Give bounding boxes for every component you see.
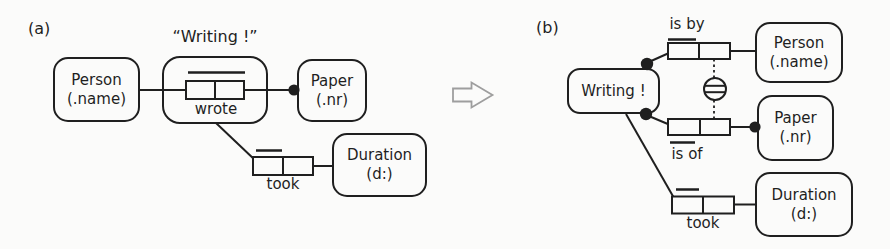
entity-name: Person [774, 34, 824, 53]
panel-b-label: (b) [536, 18, 559, 37]
entity-name: Writing ! [581, 82, 645, 101]
predicate-label-isby: is by [660, 16, 714, 33]
entity-ref-mode: (.nr) [779, 128, 811, 147]
orm-figure: (a) “Writing !” Person (.name) wrote Pap… [0, 0, 890, 249]
entity-person-b: Person (.name) [755, 22, 843, 83]
line-writing-isby [650, 53, 669, 62]
role-boxes-took-b [672, 197, 734, 214]
entity-duration-b: Duration (d:) [755, 172, 853, 237]
objectified-fact-caption: “Writing !” [160, 27, 270, 46]
predicate-label-wrote: wrote [185, 101, 247, 118]
panel-a-label: (a) [28, 19, 50, 38]
entity-duration-a: Duration (d:) [332, 133, 427, 197]
entity-name: Paper [774, 109, 816, 128]
role-boxes-took-a [253, 157, 313, 175]
entity-paper-a: Paper (.nr) [297, 59, 367, 122]
predicate-label-took-a: took [251, 176, 315, 193]
entity-ref-mode: (.name) [769, 53, 828, 72]
entity-ref-mode: (d:) [366, 165, 392, 184]
predicate-label-isof: is of [660, 146, 714, 163]
entity-ref-mode: (.name) [67, 90, 126, 109]
entity-writing-b: Writing ! [567, 68, 660, 114]
role-boxes-isof [668, 119, 730, 135]
external-uniqueness-icon [704, 78, 726, 100]
transform-arrow-icon [453, 83, 493, 108]
entity-ref-mode: (d:) [791, 205, 817, 224]
line-writing-isof [650, 117, 669, 125]
predicate-label-took-b: took [671, 215, 735, 232]
entity-name: Duration [771, 186, 836, 205]
entity-name: Person [71, 71, 121, 90]
entity-name: Duration [347, 146, 412, 165]
role-boxes-isby [668, 43, 730, 59]
entity-name: Paper [311, 72, 353, 91]
line-writing-took-a [216, 123, 256, 161]
entity-person-a: Person (.name) [53, 57, 140, 122]
entity-paper-b: Paper (.nr) [757, 95, 834, 161]
entity-ref-mode: (.nr) [316, 91, 348, 110]
